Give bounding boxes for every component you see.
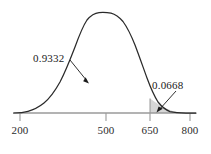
- left-annotation-arrow-head: [83, 77, 89, 83]
- left-area-label: 0.9332: [33, 52, 64, 64]
- normal-distribution-figure: 200 500 650 800 0.9332 0.0668: [0, 0, 211, 154]
- axis-tick-label-500: 500: [97, 124, 114, 136]
- axis-tick-label-800: 800: [181, 124, 198, 136]
- left-annotation-arrow-line: [70, 60, 87, 81]
- axis-tick-label-650: 650: [141, 124, 158, 136]
- right-annotation-arrow-line: [159, 91, 176, 110]
- right-area-label: 0.0668: [152, 79, 183, 91]
- axis-tick-label-200: 200: [11, 124, 28, 136]
